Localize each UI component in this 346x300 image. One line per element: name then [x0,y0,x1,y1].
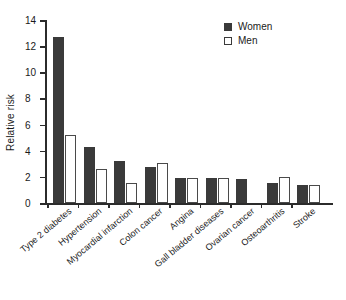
y-axis-tick [40,151,45,153]
bar-women [297,185,308,203]
bar-men [96,169,107,203]
bar-group [53,20,76,203]
bar-women [114,161,125,203]
legend-label-men: Men [238,35,257,46]
legend-label-women: Women [238,21,272,32]
bar-group [175,20,198,203]
y-axis-tick-label: 14 [25,15,35,26]
y-axis-tick-label: 2 [25,171,35,182]
y-axis-tick-label: 6 [25,119,35,130]
y-axis-title: Relative risk [2,62,18,182]
bar-men [157,163,168,203]
bar-women [53,37,64,203]
x-axis-label: Angina [167,206,195,232]
y-axis-tick [40,125,45,127]
y-axis-tick-label: 10 [25,67,35,78]
bar-men [187,178,198,203]
plot-area: 02468101214 [45,20,333,203]
y-axis-tick [40,72,45,74]
bar-women [206,178,217,203]
bar-women [267,183,278,203]
bar-men [65,135,76,203]
outlined-square-icon [224,37,232,45]
bar-group [206,20,229,203]
x-axis-labels: Type 2 diabetesHypertensionMyocardial in… [45,206,346,300]
x-axis-label: Stroke [291,206,317,230]
bar-men [218,178,229,203]
y-axis-tick [40,177,45,179]
y-axis-tick [40,203,45,205]
y-axis-line [45,20,47,203]
bar-men [279,177,290,203]
legend-item-men: Men [224,35,272,46]
x-axis-line [45,203,333,205]
relative-risk-bar-chart: Relative risk 02468101214 Women Men Type… [0,0,346,300]
y-axis-tick-label: 8 [25,93,35,104]
y-axis-tick [40,46,45,48]
chart-legend: Women Men [224,21,272,46]
x-axis-label: Type 2 diabetes [18,206,73,255]
bar-group [84,20,107,203]
bar-group [114,20,137,203]
bar-women [84,147,95,203]
bar-men [309,185,320,203]
bar-women [236,179,247,203]
bar-group [236,20,259,203]
y-axis-tick [40,98,45,100]
y-axis-tick-label: 0 [25,198,35,209]
y-axis-tick-label: 12 [25,41,35,52]
bar-women [145,167,156,203]
bar-men [126,183,137,203]
filled-square-icon [224,23,232,31]
bar-group [267,20,290,203]
y-axis-tick-label: 4 [25,145,35,156]
bar-women [175,178,186,203]
legend-item-women: Women [224,21,272,32]
bar-group [145,20,168,203]
bar-group [297,20,320,203]
y-axis-tick [40,20,45,22]
